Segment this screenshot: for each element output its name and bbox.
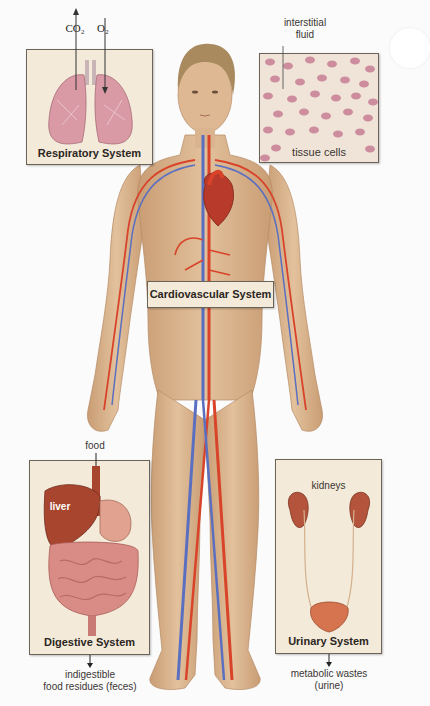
interstitial-label: interstitial fluid xyxy=(275,17,335,41)
feces-output-label: indigestible food residues (feces) xyxy=(35,669,145,693)
tissue-panel: tissue cells xyxy=(259,53,379,163)
digestive-title: Digestive System xyxy=(30,636,149,648)
food-label: food xyxy=(80,440,110,452)
co2-label: CO₂ xyxy=(63,22,87,34)
urine-arrow-icon xyxy=(324,654,334,668)
urinary-title: Urinary System xyxy=(276,635,381,647)
feces-arrow-icon xyxy=(85,655,95,669)
liver-label: liver xyxy=(45,501,75,513)
urine-output-label: metabolic wastes (urine) xyxy=(279,668,379,692)
tissue-cells-label: tissue cells xyxy=(260,146,378,158)
cardiovascular-panel: Cardiovascular System xyxy=(147,281,274,308)
cardiovascular-title: Cardiovascular System xyxy=(148,288,273,300)
urinary-panel: kidneys Urinary System xyxy=(275,459,382,654)
digestive-organs-illustration xyxy=(30,461,151,656)
digestive-panel: liver Digestive System xyxy=(29,460,150,655)
respiratory-title: Respiratory System xyxy=(27,147,152,159)
respiratory-panel: Respiratory System xyxy=(26,49,153,165)
o2-label: O₂ xyxy=(95,22,111,34)
kidneys-label: kidneys xyxy=(276,480,381,492)
